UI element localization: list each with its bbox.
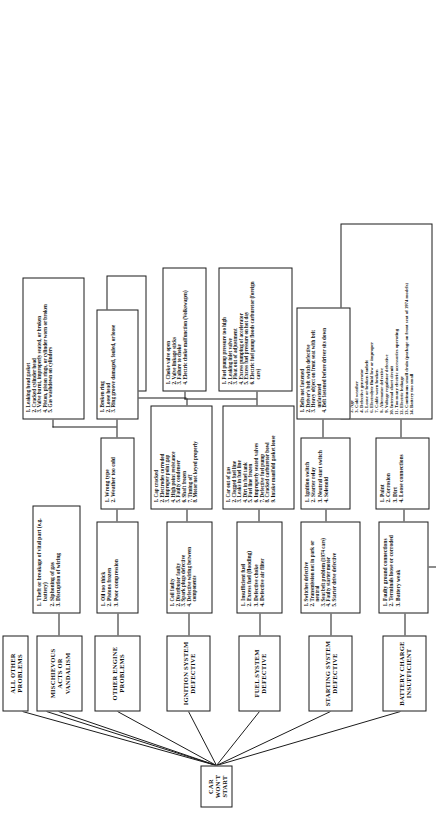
branch-head-battery[interactable]: BATTERY CHARGE INSUFFICIENT <box>382 635 426 711</box>
other-engine-level5-box[interactable]: Leaking head gasket Cracked cylinder hea… <box>22 277 84 419</box>
starting-level3-box[interactable]: Ignition switch Starter relay Neutral st… <box>300 437 350 509</box>
other-engine-level2-list: Oil too thick Pistons frozen Poor compre… <box>99 525 118 609</box>
branch-head-other-engine[interactable]: OTHER ENGINE PROBLEMS <box>94 635 140 711</box>
branch-head-ignition[interactable]: IGNITION SYSTEM DEFECTIVE <box>166 635 210 711</box>
battery-level2-list: Faulty ground connections Terminals loos… <box>381 525 400 609</box>
root-label: CAR WON'T START <box>206 769 227 803</box>
other-engine-level3-box[interactable]: Wrong type Weather too cold <box>100 437 134 509</box>
root-node-car-wont-start[interactable]: CAR WON'T START <box>200 765 232 807</box>
fuel-level4-box[interactable]: Fuel pump pressure too high Leaking inle… <box>218 267 292 391</box>
starting-level2-list: Switches defective Transmission not in p… <box>303 525 337 609</box>
branch-head-starting-label: STARTING SYSTEM DEFECTIVE <box>323 639 338 707</box>
fuel-level3-list: Car out of gas Clogged fuel line Leaks i… <box>225 409 275 505</box>
ignition-level3-list: Cap cracked Electrodes corroded Improper… <box>153 409 198 505</box>
fuel-level2-list: Insufficient fuel Excess fuel (flooding)… <box>239 525 265 609</box>
page-frame: CAR WON'T START BATTERY CHARGE INSUFFICI… <box>0 0 436 815</box>
ignition-level2-box[interactable]: Coil faulty Distributor faulty Spark plu… <box>166 521 212 613</box>
vandalism-level2-list: Theft or breakage of vital part (e.g. ba… <box>35 509 61 609</box>
other-engine-level4-box[interactable]: Broken ring Loose head Ring groove damag… <box>96 309 138 419</box>
fuel-level3-box[interactable]: Car out of gas Clogged fuel line Leaks i… <box>222 405 294 509</box>
ignition-level2-list: Coil faulty Distributor faulty Spark plu… <box>169 525 197 609</box>
branch-head-fuel[interactable]: FUEL SYSTEM DEFECTIVE <box>238 635 280 711</box>
branch-head-ignition-label: IGNITION SYSTEM DEFECTIVE <box>181 639 196 707</box>
diagram-canvas: CAR WON'T START BATTERY CHARGE INSUFFICI… <box>0 0 436 815</box>
fuel-level2-box[interactable]: Insufficient fuel Excess fuel (flooding)… <box>236 521 282 613</box>
branch-head-fuel-label: FUEL SYSTEM DEFECTIVE <box>252 639 267 707</box>
starting-level4-list: Belts not fastened Driver's belt switch … <box>299 311 327 415</box>
ignition-level3-box[interactable]: Cap cracked Electrodes corroded Improper… <box>150 405 212 509</box>
other-engine-level2-box[interactable]: Oil too thick Pistons frozen Poor compre… <box>96 521 138 613</box>
branch-head-vandalism[interactable]: MISCHIEVOUS ACTS OR VANDALISM <box>36 635 82 711</box>
branch-head-other-engine-label: OTHER ENGINE PROBLEMS <box>110 639 125 707</box>
fuel-level5-list: Choke valve open Valve linkage sticks Fa… <box>165 271 187 387</box>
battery-level3-box[interactable]: Paint Corrosion Dirt Loose connections <box>375 437 429 509</box>
other-engine-level4-list: Broken ring Loose head Ring groove damag… <box>99 313 116 415</box>
starting-level2-box[interactable]: Switches defective Transmission not in p… <box>300 521 360 613</box>
battery-level3-list: Paint Corrosion Dirt Loose connections <box>378 441 404 505</box>
battery-level4-list: Lights left on, motor off Age Cold weath… <box>343 227 413 415</box>
branch-head-starting[interactable]: STARTING SYSTEM DEFECTIVE <box>308 635 352 711</box>
battery-level2-box[interactable]: Faulty ground connections Terminals loos… <box>378 521 428 613</box>
branch-head-all-other-label: ALL OTHER PROBLEMS <box>8 639 23 707</box>
other-engine-level3-list: Wrong type Weather too cold <box>103 441 116 505</box>
fuel-level4-list: Fuel pump pressure too high Leaking inle… <box>221 271 260 387</box>
fuel-level5-box[interactable]: Choke valve open Valve linkage sticks Fa… <box>162 267 206 391</box>
other-engine-level5-list: Leaking head gasket Cracked cylinder hea… <box>25 281 53 415</box>
battery-level4-box[interactable]: Lights left on, motor off Age Cold weath… <box>340 223 432 419</box>
starting-level4-box[interactable]: Belts not fastened Driver's belt switch … <box>296 307 350 419</box>
starting-level3-list: Ignition switch Starter relay Neutral st… <box>303 441 329 505</box>
branch-head-vandalism-label: MISCHIEVOUS ACTS OR VANDALISM <box>48 639 70 707</box>
branch-head-battery-label: BATTERY CHARGE INSUFFICIENT <box>397 639 412 707</box>
vandalism-level2-box[interactable]: Theft or breakage of vital part (e.g. ba… <box>32 505 80 613</box>
branch-head-all-other[interactable]: ALL OTHER PROBLEMS <box>2 635 28 711</box>
